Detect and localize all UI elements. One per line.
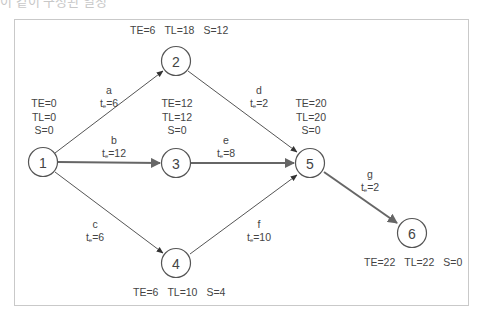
node-4: 4 xyxy=(162,249,191,278)
node-4-slack: S=4 xyxy=(206,286,225,298)
edge-g-name: g xyxy=(355,168,385,181)
edge-a-duration: =6 xyxy=(106,97,118,109)
edge-f-name: f xyxy=(241,218,277,231)
edge-c-name: c xyxy=(80,218,110,231)
edge-b-name: b xyxy=(96,134,132,147)
edge-a-label: a te=6 xyxy=(94,84,124,113)
edge-f-duration: =10 xyxy=(253,231,271,243)
edge-b-label: b te=12 xyxy=(96,134,132,163)
node-3-te: TE=12 xyxy=(157,97,197,111)
node-3: 3 xyxy=(162,149,191,178)
node-5-slack: S=0 xyxy=(291,124,331,138)
svg-text:1: 1 xyxy=(39,155,47,171)
edge-f-label: f te=10 xyxy=(241,218,277,247)
node-2-info: TE=6TL=18S=12 xyxy=(130,24,237,36)
node-1-te: TE=0 xyxy=(26,97,62,111)
edge-a-name: a xyxy=(94,84,124,97)
svg-text:2: 2 xyxy=(172,54,180,70)
node-6-slack: S=0 xyxy=(443,256,462,268)
node-6-info: TE=22TL=22S=0 xyxy=(364,256,471,268)
svg-text:4: 4 xyxy=(172,256,180,272)
edge-e-duration: =8 xyxy=(223,147,235,159)
node-6-tl: TL=22 xyxy=(404,256,434,268)
svg-text:3: 3 xyxy=(172,156,180,172)
node-4-te: TE=6 xyxy=(133,286,158,298)
edge-d-label: d te=2 xyxy=(244,84,274,113)
node-3-tl: TL=12 xyxy=(157,111,197,125)
svg-text:6: 6 xyxy=(408,226,416,242)
node-1-tl: TL=0 xyxy=(26,111,62,125)
node-2-slack: S=12 xyxy=(203,24,228,36)
node-3-info: TE=12 TL=12 S=0 xyxy=(157,97,197,138)
edge-d xyxy=(188,71,297,152)
edge-d-duration: =2 xyxy=(256,97,268,109)
node-1: 1 xyxy=(29,148,58,177)
edge-e-name: e xyxy=(211,134,241,147)
node-6-te: TE=22 xyxy=(364,256,395,268)
edge-g-label: g te=2 xyxy=(355,168,385,197)
node-3-slack: S=0 xyxy=(157,124,197,138)
node-5: 5 xyxy=(296,149,325,178)
node-4-tl: TL=10 xyxy=(167,286,197,298)
node-2-tl: TL=18 xyxy=(164,24,194,36)
node-2-te: TE=6 xyxy=(130,24,155,36)
svg-text:5: 5 xyxy=(306,156,314,172)
node-2: 2 xyxy=(162,47,191,76)
node-1-info: TE=0 TL=0 S=0 xyxy=(26,97,62,138)
node-5-te: TE=20 xyxy=(291,97,331,111)
edge-d-name: d xyxy=(244,84,274,97)
edge-c-label: c te=6 xyxy=(80,218,110,247)
edge-c-duration: =6 xyxy=(92,231,104,243)
node-4-info: TE=6TL=10S=4 xyxy=(133,286,234,298)
edge-b-duration: =12 xyxy=(108,147,126,159)
node-1-slack: S=0 xyxy=(26,124,62,138)
edge-e-label: e te=8 xyxy=(211,134,241,163)
node-5-tl: TL=20 xyxy=(291,111,331,125)
edge-g-duration: =2 xyxy=(367,181,379,193)
pert-network-diagram: 1 2 3 4 5 6 xyxy=(0,0,485,324)
node-5-info: TE=20 TL=20 S=0 xyxy=(291,97,331,138)
node-6: 6 xyxy=(398,219,427,248)
